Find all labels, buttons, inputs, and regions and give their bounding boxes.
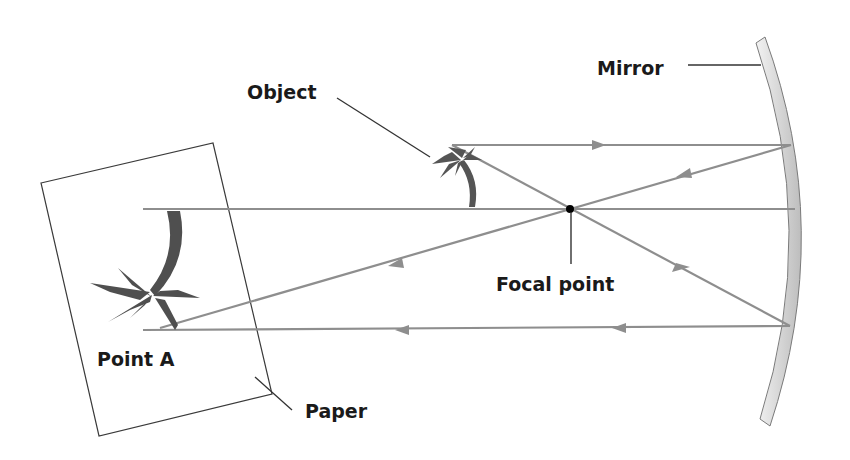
mirror-label: Mirror	[597, 57, 664, 79]
point-a-label: Point A	[97, 348, 175, 370]
leader-lines	[255, 65, 761, 410]
ray-arrowheads	[388, 140, 692, 335]
focal-point-label: Focal point	[496, 273, 614, 295]
paper-label: Paper	[305, 400, 368, 422]
ray-diagram: Object Mirror Focal point Point A Paper	[0, 0, 850, 460]
object-leader	[337, 98, 430, 157]
focal-point-dot	[566, 205, 574, 213]
concave-mirror	[756, 37, 801, 426]
object-label: Object	[247, 81, 317, 103]
arrow-right-icon	[592, 140, 606, 150]
arrow-left-icon	[676, 168, 692, 178]
arrow-left-icon	[612, 323, 626, 333]
arrow-left-icon	[395, 325, 409, 335]
